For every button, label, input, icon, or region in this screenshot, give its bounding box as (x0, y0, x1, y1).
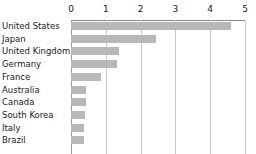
bar (71, 86, 86, 94)
bar-chart: United States Japan United Kingdom Germa… (0, 0, 256, 154)
x-tick-label: 5 (235, 4, 255, 15)
bar (71, 47, 119, 55)
bar (71, 124, 84, 132)
bar (71, 73, 101, 81)
category-label: Germany (2, 59, 70, 69)
category-label: Canada (2, 97, 70, 107)
bar (71, 98, 86, 106)
category-label: Brazil (2, 135, 70, 145)
bar (71, 22, 231, 30)
category-label: Italy (2, 123, 70, 133)
x-tick-label: 2 (131, 4, 151, 15)
x-tick-label: 0 (61, 4, 81, 15)
gridline-4 (210, 20, 211, 154)
category-label: Australia (2, 85, 70, 95)
category-label: United States (2, 21, 70, 31)
x-tick-label: 4 (200, 4, 220, 15)
bar (71, 35, 156, 43)
category-label: United Kingdom (2, 46, 70, 56)
gridline-3 (175, 20, 176, 154)
category-label: Japan (2, 34, 70, 44)
category-label: France (2, 72, 70, 82)
plot-area (71, 20, 245, 154)
category-axis-labels: United States Japan United Kingdom Germa… (2, 20, 70, 154)
bar (71, 60, 117, 68)
x-tick-label: 3 (165, 4, 185, 15)
x-tick-label: 1 (96, 4, 116, 15)
bar (71, 111, 85, 119)
category-label: South Korea (2, 110, 70, 120)
gridline-5 (245, 20, 246, 154)
bar (71, 136, 84, 144)
